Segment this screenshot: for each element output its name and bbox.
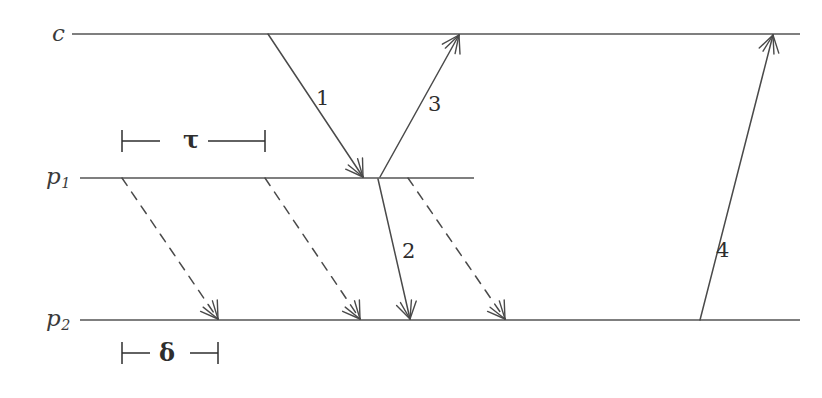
ray-label-4: 4 (716, 240, 729, 261)
ray-3-head-l1 (459, 35, 460, 54)
dashed-ray-c-head-r1 (504, 300, 505, 319)
axis-label-c: c (52, 22, 65, 47)
dashed-ray-b-head-r1 (359, 300, 360, 319)
diagram-canvas (0, 0, 822, 398)
measure-brackets-group (122, 130, 265, 364)
ray-label-3: 3 (428, 94, 441, 115)
axis-label-c-main: c (52, 20, 65, 46)
ray-3-line (380, 35, 459, 177)
dashed-ray-b-line (265, 178, 360, 319)
delta-symbol: δ (159, 341, 175, 365)
axis-label-p2-sub: 2 (61, 317, 70, 333)
axis-label-p1-sub: 1 (61, 175, 70, 191)
ray-1-head-r1 (362, 158, 363, 177)
dashed-ray-a-line (122, 178, 218, 319)
solid-rays-group (268, 34, 779, 320)
ray-4-line (700, 35, 773, 320)
axis-label-p1: p1 (46, 165, 70, 190)
ray-label-2: 2 (402, 241, 415, 262)
axis-label-p2: p2 (46, 307, 70, 332)
tau-symbol: τ (183, 128, 199, 152)
dashed-ray-c-line (408, 178, 505, 319)
timing-diagram: c p1 p2 1 2 3 4 τ δ (0, 0, 822, 398)
axis-label-p1-main: p (46, 163, 61, 189)
dashed-rays-group (122, 178, 505, 319)
ray-label-1: 1 (316, 88, 329, 109)
dashed-ray-a-head-r1 (217, 300, 218, 319)
axis-label-p2-main: p (46, 305, 61, 331)
